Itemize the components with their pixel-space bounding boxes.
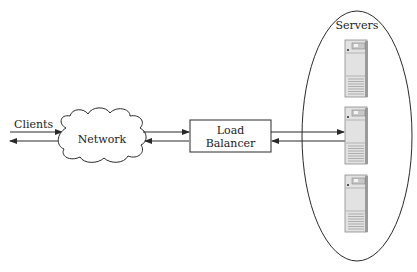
network-label: Network (78, 133, 127, 146)
load-balancer-diagram: Clients Network Load Balancer Servers (0, 0, 417, 272)
servers-label: Servers (336, 19, 379, 32)
server-tower-icon (345, 107, 368, 164)
server-tower-icon (345, 175, 368, 232)
load-balancer-label-line2: Balancer (206, 137, 256, 150)
server-tower-icon (345, 40, 368, 97)
load-balancer-label-line1: Load (217, 124, 245, 137)
clients-label: Clients (14, 118, 53, 131)
